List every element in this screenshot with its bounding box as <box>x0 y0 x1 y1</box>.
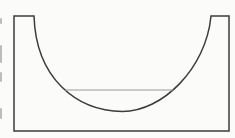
scan-edge-artifact <box>0 72 2 82</box>
diagram-background <box>0 0 235 138</box>
scan-edge-artifact <box>0 18 2 24</box>
figure-panel: 1 <box>0 0 235 138</box>
scan-edge-artifact <box>0 45 2 63</box>
vessel-diagram <box>0 0 235 138</box>
scan-edge-artifact <box>0 108 2 119</box>
